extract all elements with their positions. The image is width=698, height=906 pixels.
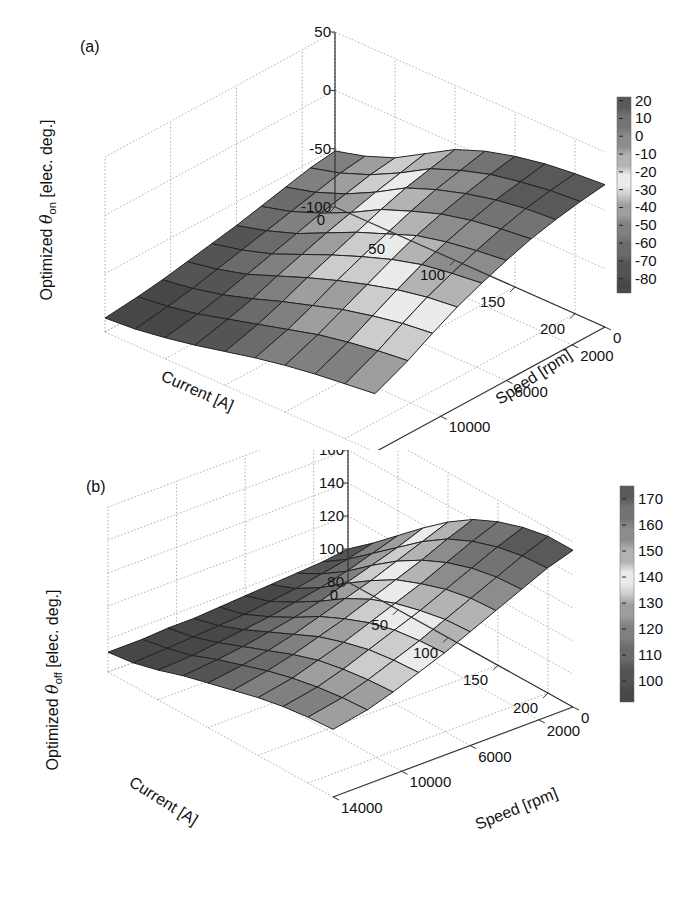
svg-text:0: 0 [613,329,621,346]
svg-text:2000: 2000 [547,722,580,739]
svg-text:50: 50 [368,240,385,257]
svg-text:Speed [rpm]: Speed [rpm] [473,784,560,832]
svg-text:2000: 2000 [580,347,613,364]
svg-text:50: 50 [314,23,331,40]
svg-text:20: 20 [635,92,652,109]
svg-text:110: 110 [638,646,662,663]
surface-plot-a: -100-50050050100150200020006000100001400… [0,0,698,450]
svg-text:0: 0 [317,211,325,228]
svg-text:-10: -10 [635,145,657,162]
svg-text:100: 100 [413,644,438,661]
svg-text:160: 160 [319,450,344,458]
panel-label-b: (b) [86,478,106,496]
svg-text:Current [A]: Current [A] [126,773,201,828]
svg-text:0: 0 [581,709,589,726]
chart-panel-b: (b) 801001201401601800501001502000200060… [0,450,698,906]
svg-text:10000: 10000 [410,773,452,790]
svg-text:0: 0 [635,127,643,144]
svg-text:-70: -70 [635,252,657,269]
svg-text:Current [A]: Current [A] [159,367,237,414]
svg-text:170: 170 [638,490,663,507]
svg-text:120: 120 [638,620,663,637]
svg-text:-30: -30 [635,181,657,198]
svg-text:100: 100 [638,672,663,689]
svg-text:50: 50 [371,616,388,633]
svg-text:100: 100 [420,266,445,283]
svg-text:10000: 10000 [449,418,491,435]
svg-text:130: 130 [638,594,663,611]
panel-label-a: (a) [80,38,100,56]
svg-text:14000: 14000 [341,799,383,816]
svg-text:200: 200 [513,699,538,716]
svg-text:10: 10 [635,109,652,126]
svg-text:160: 160 [638,516,663,533]
svg-text:-60: -60 [635,234,657,251]
svg-text:140: 140 [638,568,663,585]
svg-text:0: 0 [330,586,338,603]
svg-text:Optimized θon [elec. deg.]: Optimized θon [elec. deg.] [37,119,58,300]
svg-text:100: 100 [319,540,344,557]
svg-text:6000: 6000 [478,748,511,765]
svg-text:-50: -50 [309,140,331,157]
svg-text:120: 120 [319,507,344,524]
svg-text:150: 150 [480,293,505,310]
svg-text:150: 150 [638,542,663,559]
svg-text:150: 150 [463,671,488,688]
svg-text:-80: -80 [635,270,657,287]
svg-text:-20: -20 [635,163,657,180]
svg-text:Optimized θoff [elec. deg.]: Optimized θoff [elec. deg.] [43,590,64,771]
surface-plot-b: 8010012014016018005010015020002000600010… [0,450,698,906]
svg-text:140: 140 [319,474,344,491]
svg-text:-40: -40 [635,198,657,215]
svg-text:200: 200 [540,320,565,337]
chart-panel-a: (a) -100-5005005010015020002000600010000… [0,0,698,450]
svg-text:-50: -50 [635,216,657,233]
